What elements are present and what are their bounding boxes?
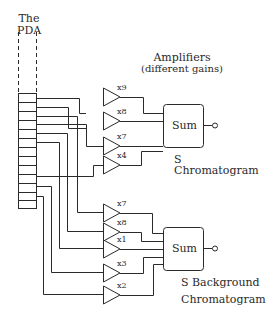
gain-label: x8 [117,219,127,227]
output-label-background-line1: S Background [181,277,260,288]
amplifiers-title: Amplifiers [134,52,230,63]
output-label-background-line2: Chromatogram [181,294,266,305]
pda-dashed-guides [19,32,37,93]
gain-label: x7 [117,133,127,141]
amplifiers-subtitle: (different gains) [124,64,240,74]
gain-label: x2 [117,282,127,290]
gain-label: x3 [117,260,127,268]
gain-label: x9 [117,84,127,92]
pda-array [18,93,37,209]
pda-title-line1: The [17,13,41,24]
gain-label: x8 [117,108,127,116]
amplifiers [104,88,121,304]
sum-label-background: Sum [172,243,197,254]
sum-label-signal: Sum [172,120,197,131]
output-terminal-signal [213,123,218,128]
pda-title-line2: PDA [17,25,41,36]
gain-label: x7 [117,200,127,208]
pda-amplifier-diagram: The PDA Amplifiers (different gains) x9 … [0,0,267,319]
pda-to-amplifier-wires [37,99,103,295]
output-terminal-background [213,246,218,251]
gain-label: x4 [117,152,127,160]
output-label-signal: S Chromatogram [174,154,267,176]
gain-label: x1 [117,236,127,244]
